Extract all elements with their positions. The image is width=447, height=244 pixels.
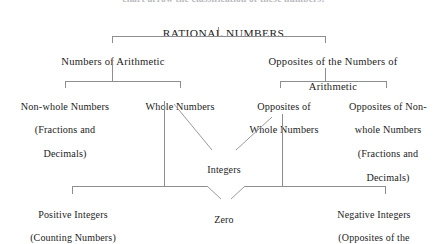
diagram-canvas: chart arrow the classification of these … [0,0,447,244]
edge-right-to-zero [0,0,447,244]
edge-to-negative-integers [385,186,386,194]
